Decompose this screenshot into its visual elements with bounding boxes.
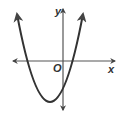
origin-label: O: [53, 63, 62, 74]
y-axis-label: y: [55, 6, 61, 17]
x-axis-label: x: [108, 64, 114, 75]
coordinate-graph: [0, 0, 123, 115]
parabola-curve: [17, 14, 83, 102]
